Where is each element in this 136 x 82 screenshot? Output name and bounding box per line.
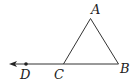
label-c: C	[54, 67, 64, 82]
label-d: D	[19, 67, 31, 82]
point-d-dot	[24, 62, 28, 66]
label-b: B	[119, 61, 130, 76]
triangle-diagram: A B C D	[0, 0, 136, 82]
label-a: A	[90, 2, 100, 17]
geometry-figure: A B C D	[0, 0, 136, 82]
segment-ac	[64, 19, 91, 65]
segment-ab	[91, 19, 119, 65]
